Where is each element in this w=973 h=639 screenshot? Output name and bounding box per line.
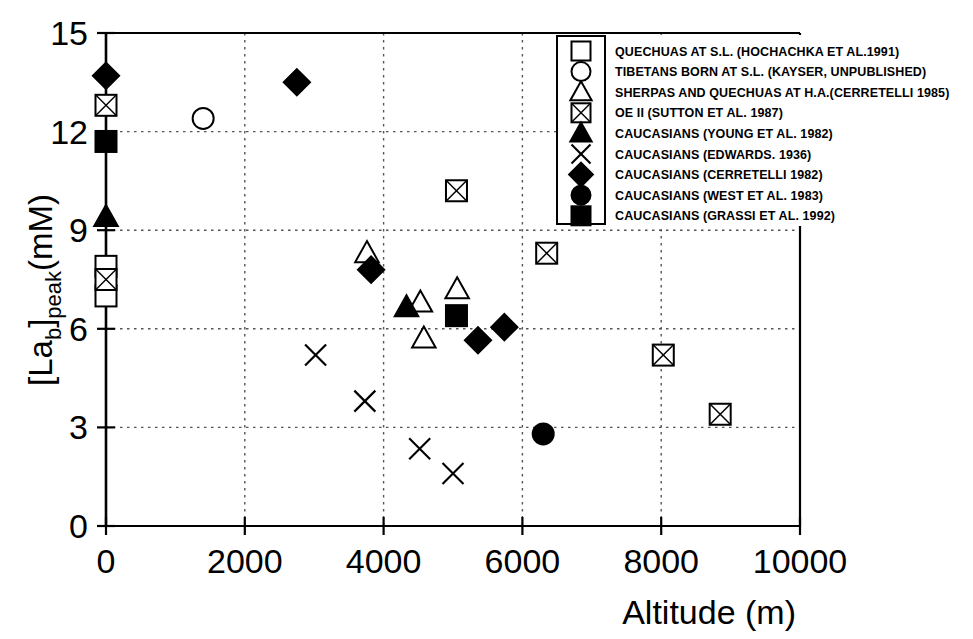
data-point-3-1 <box>96 269 117 290</box>
legend: QUECHUAS AT S.L. (HOCHACHKA ET AL.1991)T… <box>556 35 967 226</box>
marker-open-circle <box>193 108 214 129</box>
y-tick-label: 15 <box>50 14 88 52</box>
x-tick-label: 10000 <box>753 542 848 580</box>
data-point-8-1 <box>446 305 467 326</box>
data-point-3-3 <box>536 243 557 264</box>
y-tick-label: 0 <box>69 507 88 545</box>
data-point-3-4 <box>653 345 674 366</box>
legend-item[interactable]: TIBETANS BORN AT S.L. (KAYSER, UNPUBLISH… <box>572 62 927 81</box>
x-tick-label: 8000 <box>623 542 699 580</box>
legend-item-label: CAUCASIANS (CERRETELLI 1982) <box>615 168 823 182</box>
series-7 <box>533 423 554 444</box>
y-tick-label: 9 <box>69 211 88 249</box>
marker-filled-square <box>446 305 467 326</box>
legend-item-label: CAUCASIANS (EDWARDS. 1936) <box>615 148 811 162</box>
x-tick-label: 4000 <box>346 542 422 580</box>
x-tick-label: 0 <box>97 542 116 580</box>
marker-filled-circle <box>572 186 591 205</box>
plot-canvas: 0200040006000800010000 03691215 Altitude… <box>0 0 973 639</box>
data-point-legend-7 <box>572 186 591 205</box>
legend-item-label: TIBETANS BORN AT S.L. (KAYSER, UNPUBLISH… <box>615 65 926 79</box>
legend-item-label: OE II (SUTTON ET AL. 1987) <box>615 106 783 120</box>
scatter-plot-figure: 0200040006000800010000 03691215 Altitude… <box>0 0 973 639</box>
data-point-7-0 <box>533 423 554 444</box>
series-1 <box>193 108 214 129</box>
marker-open-circle <box>572 62 591 81</box>
data-point-3-2 <box>446 180 467 201</box>
legend-item-label: QUECHUAS AT S.L. (HOCHACHKA ET AL.1991) <box>615 45 899 59</box>
legend-item-label: SHERPAS AND QUECHUAS AT H.A.(CERRETELLI … <box>615 86 949 100</box>
data-point-legend-3 <box>572 103 591 122</box>
data-point-1-0 <box>193 108 214 129</box>
data-point-legend-8 <box>572 206 591 225</box>
y-tick-label: 3 <box>69 408 88 446</box>
data-point-3-0 <box>96 95 117 116</box>
legend-item[interactable]: QUECHUAS AT S.L. (HOCHACHKA ET AL.1991) <box>572 42 900 61</box>
x-tick-label: 6000 <box>485 542 561 580</box>
marker-open-square <box>572 42 591 61</box>
data-point-legend-1 <box>572 62 591 81</box>
data-point-3-5 <box>710 404 731 425</box>
y-tick-label: 6 <box>69 310 88 348</box>
marker-filled-circle <box>533 423 554 444</box>
y-tick-label: 12 <box>50 113 88 151</box>
marker-filled-square <box>572 206 591 225</box>
x-axis-title: Altitude (m) <box>622 593 796 631</box>
x-tick-label: 2000 <box>207 542 283 580</box>
data-point-8-0 <box>96 131 117 152</box>
legend-item-label: CAUCASIANS (YOUNG ET AL. 1982) <box>615 127 833 141</box>
legend-item-label: CAUCASIANS (WEST ET AL. 1983) <box>615 189 823 203</box>
legend-item-label: CAUCASIANS (GRASSI ET AL. 1992) <box>615 209 835 223</box>
marker-filled-square <box>96 131 117 152</box>
data-point-legend-0 <box>572 42 591 61</box>
